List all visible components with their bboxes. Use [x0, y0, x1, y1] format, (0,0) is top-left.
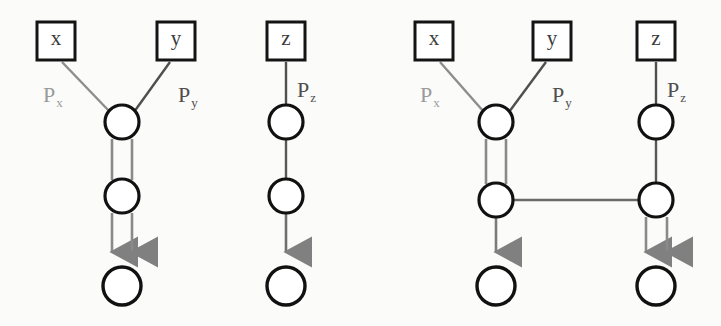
input-place-z-box[interactable] — [267, 22, 305, 60]
edge-label-px: Px — [420, 84, 439, 106]
edge-label-px: Px — [43, 84, 62, 106]
transition-middle-circle[interactable] — [269, 179, 303, 213]
group-1-edges — [62, 62, 170, 252]
transition-right-middle-circle[interactable] — [639, 183, 673, 217]
input-place-x-box[interactable] — [37, 22, 75, 60]
transition-middle-circle[interactable] — [105, 179, 139, 213]
group-1-nodes — [37, 22, 195, 305]
edge-label-py-base: P — [552, 82, 564, 107]
edge-y-to-top — [134, 62, 170, 112]
input-place-y-box[interactable] — [533, 22, 571, 60]
edge-label-px-subscript: x — [433, 95, 440, 110]
transition-top-circle[interactable] — [105, 105, 139, 139]
input-place-z-box[interactable] — [637, 22, 675, 60]
edge-label-pz-base: P — [297, 77, 309, 102]
edge-label-py-base: P — [178, 82, 190, 107]
edge-label-pz-subscript: z — [310, 90, 316, 105]
edge-label-pz-base: P — [667, 77, 679, 102]
edge-label-pz: Pz — [667, 79, 685, 101]
edge-label-px-subscript: x — [56, 95, 63, 110]
edge-label-px-base: P — [420, 82, 432, 107]
transition-left-middle-circle[interactable] — [479, 183, 513, 217]
edge-y-to-left-top — [509, 62, 546, 112]
edge-label-pz-subscript: z — [680, 90, 686, 105]
edge-label-px-base: P — [43, 82, 55, 107]
edge-label-py-subscript: y — [565, 95, 572, 110]
transition-right-top-circle[interactable] — [639, 105, 673, 139]
transition-top-circle[interactable] — [269, 105, 303, 139]
transition-left-top-circle[interactable] — [479, 105, 513, 139]
edge-x-to-top — [62, 62, 110, 112]
edge-label-py-subscript: y — [191, 95, 198, 110]
input-place-x-box[interactable] — [415, 22, 453, 60]
transition-right-bottom-circle[interactable] — [637, 267, 675, 305]
edge-label-py: Py — [178, 84, 197, 106]
input-place-y-box[interactable] — [157, 22, 195, 60]
transition-bottom-circle[interactable] — [267, 267, 305, 305]
edge-x-to-left-top — [440, 62, 484, 112]
diagram-canvas — [0, 0, 721, 326]
petri-net-figure: x y z x y z Px Py Pz Px Py Pz — [0, 0, 721, 326]
transition-left-bottom-circle[interactable] — [477, 267, 515, 305]
transition-bottom-circle[interactable] — [103, 267, 141, 305]
edge-label-py: Py — [552, 84, 571, 106]
edge-label-pz: Pz — [297, 79, 315, 101]
